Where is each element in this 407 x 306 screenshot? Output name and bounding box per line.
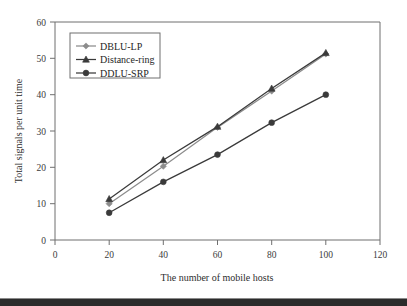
footer-bar [0, 299, 407, 306]
y-tick-label-0: 0 [41, 236, 46, 246]
data-point [322, 49, 329, 55]
y-tick-label-50: 50 [37, 54, 47, 64]
x-tick-label-60: 60 [213, 250, 223, 260]
x-tick-label-80: 80 [267, 250, 277, 260]
data-point [269, 120, 275, 126]
y-axis-title: Total signals per unit time [13, 78, 24, 183]
x-tick-label-0: 0 [53, 250, 58, 260]
y-tick-label-40: 40 [37, 90, 47, 100]
legend: DBLU-LPDistance-ringDDLU-SRP [70, 33, 160, 79]
data-point [268, 85, 275, 91]
data-point [106, 195, 113, 201]
y-tick-marks [50, 22, 55, 240]
line-chart: 0 10 20 30 40 50 60 0 20 40 60 80 100 12… [0, 0, 407, 296]
x-tick-labels: 0 20 40 60 80 100 120 [53, 250, 388, 260]
series-ddlu-srp [106, 92, 328, 216]
y-tick-label-10: 10 [37, 199, 47, 209]
data-point [160, 179, 166, 185]
y-tick-label-30: 30 [37, 127, 47, 137]
data-point [160, 157, 167, 163]
legend-label: DDLU-SRP [100, 68, 149, 79]
data-point [215, 152, 221, 158]
x-tick-label-120: 120 [373, 250, 388, 260]
x-tick-label-20: 20 [104, 250, 114, 260]
legend-label: DBLU-LP [100, 41, 143, 52]
data-point [106, 210, 112, 216]
x-axis-title: The number of mobile hosts [161, 272, 274, 283]
figure-container: 0 10 20 30 40 50 60 0 20 40 60 80 100 12… [0, 0, 407, 306]
x-tick-label-100: 100 [319, 250, 334, 260]
y-tick-label-60: 60 [37, 18, 47, 28]
data-point [323, 92, 329, 98]
y-tick-labels: 0 10 20 30 40 50 60 [37, 18, 47, 246]
legend-marker-circle-icon [83, 70, 89, 76]
x-tick-marks [55, 240, 380, 245]
x-tick-label-40: 40 [159, 250, 169, 260]
y-tick-label-20: 20 [37, 163, 47, 173]
legend-label: Distance-ring [100, 54, 154, 65]
